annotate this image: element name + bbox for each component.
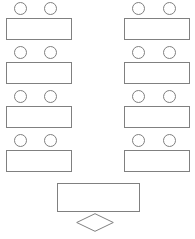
seat-circle[interactable] bbox=[14, 134, 27, 147]
student-desk[interactable] bbox=[124, 106, 190, 128]
seat-circle[interactable] bbox=[163, 2, 176, 15]
student-desk[interactable] bbox=[124, 18, 190, 40]
seat-circle[interactable] bbox=[44, 46, 57, 59]
seat-circle[interactable] bbox=[132, 134, 145, 147]
seat-circle[interactable] bbox=[14, 2, 27, 15]
seat-circle[interactable] bbox=[163, 90, 176, 103]
student-desk[interactable] bbox=[6, 150, 72, 172]
seat-circle[interactable] bbox=[163, 46, 176, 59]
student-desk[interactable] bbox=[124, 62, 190, 84]
seat-circle[interactable] bbox=[14, 90, 27, 103]
student-desk[interactable] bbox=[124, 150, 190, 172]
seat-circle[interactable] bbox=[132, 2, 145, 15]
classroom-layout-diagram bbox=[0, 0, 195, 239]
teacher-desk[interactable] bbox=[57, 183, 140, 212]
seat-circle[interactable] bbox=[14, 46, 27, 59]
seat-circle[interactable] bbox=[44, 2, 57, 15]
student-desk[interactable] bbox=[6, 106, 72, 128]
student-desk[interactable] bbox=[6, 18, 72, 40]
seat-circle[interactable] bbox=[44, 134, 57, 147]
seat-circle[interactable] bbox=[132, 46, 145, 59]
seat-circle[interactable] bbox=[44, 90, 57, 103]
seat-circle[interactable] bbox=[132, 90, 145, 103]
student-desk[interactable] bbox=[6, 62, 72, 84]
seat-circle[interactable] bbox=[163, 134, 176, 147]
podium-diamond[interactable] bbox=[76, 213, 114, 232]
